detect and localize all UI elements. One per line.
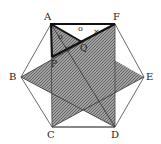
diagram-figure xyxy=(0,0,161,144)
tick-mark-pq: × xyxy=(64,45,71,53)
point-label-p: P xyxy=(51,59,57,69)
vertex-label-b: B xyxy=(9,72,16,82)
angle-mark-circle-top: o xyxy=(78,25,83,33)
tick-mark-qf: × xyxy=(93,28,100,36)
vertex-label-c: C xyxy=(47,130,55,140)
vertex-label-e: E xyxy=(146,72,153,82)
vertex-label-d: D xyxy=(111,130,119,140)
vertex-label-a: A xyxy=(44,12,51,22)
angle-mark-circle-left: o xyxy=(58,33,63,41)
point-label-q: Q xyxy=(80,43,87,53)
vertex-label-f: F xyxy=(113,12,120,22)
hexagon-diagram: A F B E C D P Q o o × × xyxy=(0,0,161,144)
